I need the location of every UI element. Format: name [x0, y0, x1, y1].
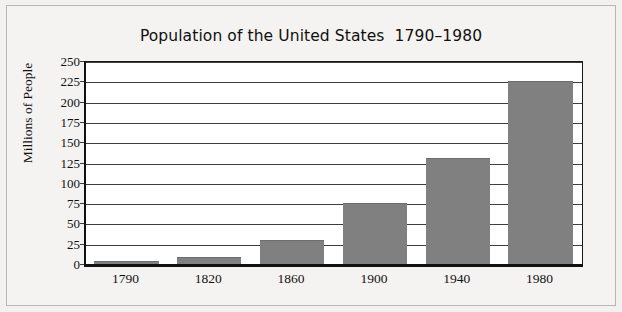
y-tick-label: 250	[44, 55, 80, 68]
bar-1860	[260, 240, 324, 265]
y-tick-label: 150	[44, 136, 80, 149]
x-axis-line	[84, 264, 583, 267]
y-tick-label: 50	[44, 217, 80, 230]
y-tick-label: 100	[44, 177, 80, 190]
y-tick-label: 0	[44, 258, 80, 271]
bar-1900	[343, 203, 407, 265]
plot-area	[84, 61, 583, 266]
x-tick-label: 1900	[333, 272, 416, 286]
y-tick-label: 25	[44, 238, 80, 251]
y-axis-tick-labels: 0255075100125150175200225250	[40, 61, 80, 266]
y-tick-label: 225	[44, 75, 80, 88]
y-tick-label: 200	[44, 96, 80, 109]
y-axis-title: Millions of People	[20, 38, 36, 188]
y-axis-line	[84, 61, 86, 267]
y-tick-label: 75	[44, 197, 80, 210]
x-tick-label: 1860	[250, 272, 333, 286]
x-tick-label: 1980	[498, 272, 581, 286]
bar-1940	[426, 158, 490, 265]
bar-1980	[508, 81, 572, 265]
x-tick-label: 1820	[167, 272, 250, 286]
y-tick-label: 125	[44, 157, 80, 170]
chart-title: Population of the United States 1790–198…	[0, 27, 622, 45]
x-tick-label: 1790	[84, 272, 167, 286]
bar-series	[85, 62, 582, 265]
x-axis-tick-labels: 179018201860190019401980	[84, 272, 583, 294]
chart-figure: Population of the United States 1790–198…	[0, 0, 622, 312]
x-tick-label: 1940	[415, 272, 498, 286]
y-tick-label: 175	[44, 116, 80, 129]
